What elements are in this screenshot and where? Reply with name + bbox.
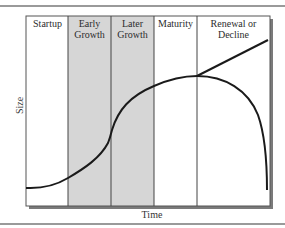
later-growth-shade bbox=[111, 16, 154, 206]
stage-label-line: Decline bbox=[197, 29, 270, 40]
stage-label-later-growth: Later Growth bbox=[111, 18, 154, 40]
x-axis-label: Time bbox=[137, 209, 167, 220]
stage-label-renewal-or-decline: Renewal or Decline bbox=[197, 18, 270, 40]
early-growth-shade bbox=[68, 16, 111, 206]
stage-label-line: Renewal or bbox=[197, 18, 270, 29]
stage-label-line: Startup bbox=[27, 18, 68, 29]
stage-label-line: Growth bbox=[68, 29, 111, 40]
stage-label-maturity: Maturity bbox=[154, 18, 197, 29]
stage-label-line: Growth bbox=[111, 29, 154, 40]
stage-label-startup: Startup bbox=[27, 18, 68, 29]
bottom-rule bbox=[0, 223, 285, 225]
stage-label-line: Maturity bbox=[154, 18, 197, 29]
life-cycle-diagram: Startup Early Growth Later Growth Maturi… bbox=[0, 0, 285, 228]
stage-label-line: Later bbox=[111, 18, 154, 29]
stage-label-line: Early bbox=[68, 18, 111, 29]
stage-label-early-growth: Early Growth bbox=[68, 18, 111, 40]
y-axis-label: Size bbox=[14, 94, 25, 118]
